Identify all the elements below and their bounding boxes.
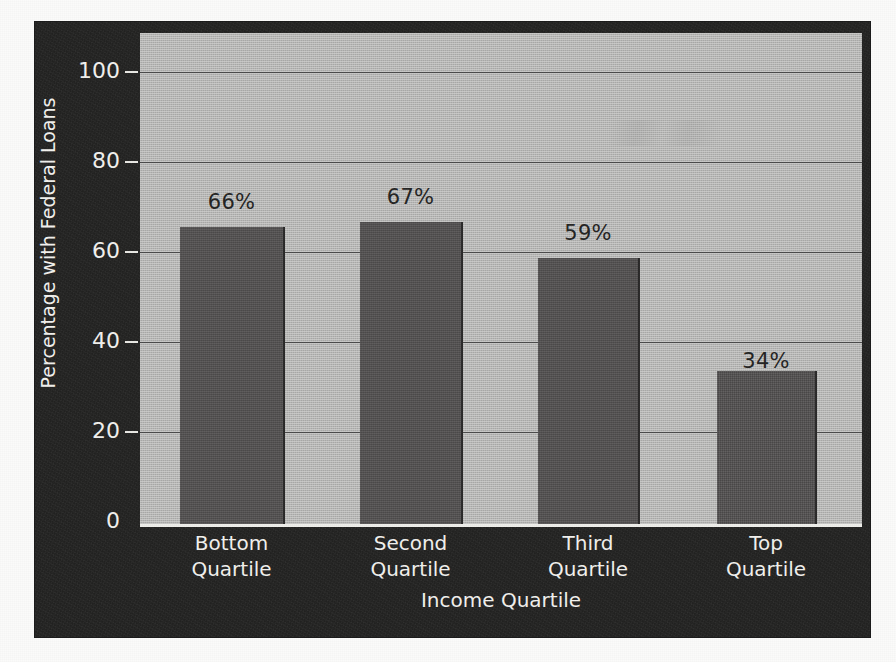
y-tick-label-80: 80 <box>0 148 120 173</box>
x-tick-line1: Top <box>749 531 783 555</box>
x-tick-line2: Quartile <box>538 556 638 582</box>
bar-bottom-quartile[interactable] <box>180 227 285 524</box>
x-tick-line1: Second <box>374 531 448 555</box>
x-tick-line1: Bottom <box>195 531 268 555</box>
bar-value-bottom-quartile: 66% <box>180 190 283 214</box>
x-tick-line1: Third <box>562 531 613 555</box>
plot-area <box>140 33 862 524</box>
x-tick-line2: Quartile <box>180 556 283 582</box>
y-tick-label-40: 40 <box>0 328 120 353</box>
bar-third-quartile[interactable] <box>538 258 640 524</box>
x-tick-line2: Quartile <box>717 556 815 582</box>
x-tick-label-bottom-quartile: Bottom Quartile <box>180 530 283 582</box>
x-tick-line2: Quartile <box>360 556 461 582</box>
y-tick-mark-100 <box>125 71 138 73</box>
bar-top-quartile[interactable] <box>717 371 817 524</box>
bar-value-second-quartile: 67% <box>360 185 461 209</box>
x-axis-baseline <box>140 524 862 527</box>
x-tick-label-second-quartile: Second Quartile <box>360 530 461 582</box>
bar-value-third-quartile: 59% <box>538 221 638 245</box>
y-tick-mark-60 <box>125 251 138 253</box>
x-axis-title: Income Quartile <box>140 588 862 612</box>
gridline-80 <box>140 162 862 163</box>
x-tick-label-top-quartile: Top Quartile <box>717 530 815 582</box>
y-tick-label-100: 100 <box>0 58 120 83</box>
chart-page: 66% 67% 59% 34% 100 80 60 40 20 0 Percen… <box>0 0 896 662</box>
y-axis-title: Percentage with Federal Loans <box>37 43 59 443</box>
gridline-100 <box>140 72 862 73</box>
y-tick-label-20: 20 <box>0 418 120 443</box>
y-tick-mark-40 <box>125 341 138 343</box>
bar-second-quartile[interactable] <box>360 222 463 524</box>
x-tick-label-third-quartile: Third Quartile <box>538 530 638 582</box>
y-tick-mark-80 <box>125 161 138 163</box>
y-tick-mark-20 <box>125 431 138 433</box>
y-tick-label-60: 60 <box>0 238 120 263</box>
y-tick-label-0: 0 <box>0 508 120 533</box>
bar-value-top-quartile: 34% <box>717 349 815 373</box>
scan-smudge <box>610 120 720 146</box>
